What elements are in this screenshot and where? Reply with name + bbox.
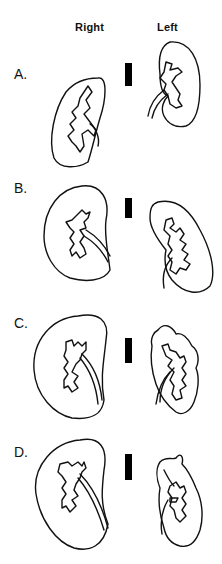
kidney-c-left — [151, 326, 198, 414]
kidney-b-right — [44, 186, 110, 281]
kidney-a-left — [148, 42, 200, 127]
kidney-d-left — [157, 455, 202, 546]
kidney-a-right — [52, 78, 105, 167]
kidney-d-right — [36, 439, 108, 549]
kidney-diagram — [0, 0, 222, 564]
kidney-b-left — [150, 201, 213, 292]
kidney-c-right — [34, 315, 107, 418]
